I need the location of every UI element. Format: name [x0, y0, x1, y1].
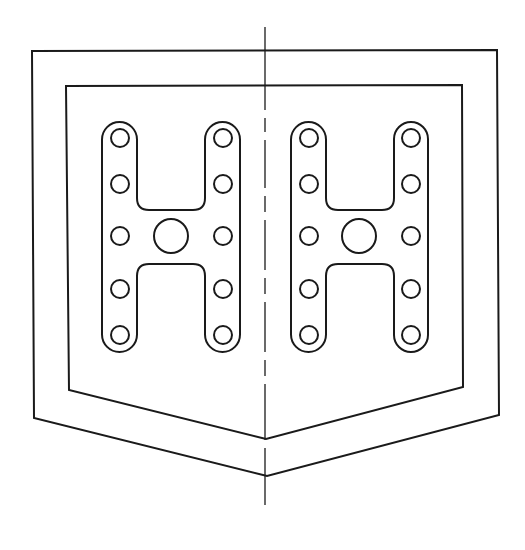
- bolt-hole: [214, 227, 232, 245]
- bolt-hole: [111, 227, 129, 245]
- bolt-hole: [300, 280, 318, 298]
- bolt-hole: [214, 280, 232, 298]
- bolt-hole: [300, 227, 318, 245]
- bolt-hole: [402, 129, 420, 147]
- h-plate-left: [102, 122, 240, 352]
- center-hole: [342, 219, 376, 253]
- bolt-hole: [111, 129, 129, 147]
- bolt-hole: [300, 175, 318, 193]
- bolt-hole: [214, 326, 232, 344]
- bolt-hole: [111, 326, 129, 344]
- bolt-hole: [111, 175, 129, 193]
- bolt-hole: [402, 326, 420, 344]
- center-hole: [154, 219, 188, 253]
- bolt-hole: [402, 175, 420, 193]
- bolt-hole: [402, 227, 420, 245]
- bolt-hole: [111, 280, 129, 298]
- bolt-hole: [214, 175, 232, 193]
- h-plate-outline: [102, 122, 240, 352]
- bolt-hole: [214, 129, 232, 147]
- h-plate-outline: [291, 122, 428, 352]
- h-plate-right: [291, 122, 428, 352]
- bolt-hole: [300, 129, 318, 147]
- technical-drawing: [0, 0, 525, 550]
- bolt-hole: [300, 326, 318, 344]
- bolt-hole: [402, 280, 420, 298]
